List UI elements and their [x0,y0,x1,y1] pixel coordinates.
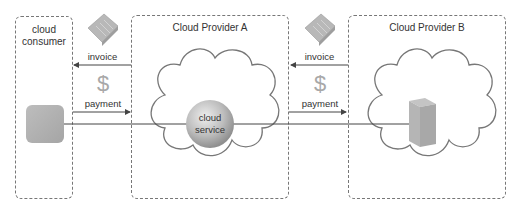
consumer-device-icon [26,105,64,143]
invoice-icon-1 [88,14,118,46]
invoice-icon-2 [305,14,335,46]
payment-label-1: payment [78,98,128,110]
dollar-icon-2: $ [305,72,335,96]
payment-label-2: payment [295,98,345,110]
dollar-icon-1: $ [88,72,118,96]
invoice-label-1: invoice [80,51,125,63]
cloud-service-label: cloud service [186,112,234,136]
cloud-provider-b-title: Cloud Provider B [348,22,506,34]
server-icon [409,98,436,147]
cloud-provider-a-title: Cloud Provider A [131,22,289,34]
invoice-label-2: invoice [297,51,342,63]
cloud-consumer-title: cloud consumer [15,24,73,48]
